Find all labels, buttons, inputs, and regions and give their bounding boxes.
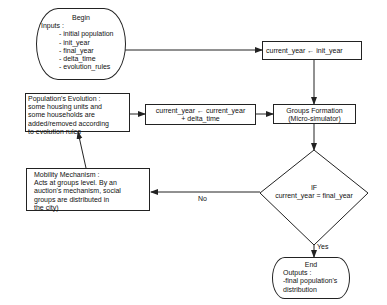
begin-title: Begin (37, 14, 125, 22)
increment-line2: + delta_time (146, 115, 255, 123)
edge-label-yes: Yes (317, 243, 328, 250)
decision-condition: current_year = final_year (262, 192, 366, 200)
edge-label-no: No (198, 195, 207, 202)
init-assign-box: current_year ← init_year (262, 41, 362, 60)
end-output-line: Outputs : (283, 269, 349, 277)
decision-if: IF (262, 184, 366, 192)
population-evolution-line: to evolution rules (28, 128, 129, 136)
end-output-line: -final population's (283, 277, 349, 285)
population-evolution-line: Population's Evolution : (28, 95, 129, 103)
mobility-line: the city) (34, 204, 149, 212)
groups-formation-title: Groups Formation (274, 107, 355, 115)
begin-input-item: - initial population (45, 30, 125, 38)
mobility-line: Mobility Mechanism : (34, 171, 149, 179)
mobility-line: groups are distributed in (34, 196, 149, 204)
end-terminal: End Outputs : -final population's distri… (272, 257, 350, 299)
population-evolution-line: some housing units and (28, 103, 129, 111)
population-evolution-box: Population's Evolution : some housing un… (25, 93, 130, 132)
increment-box: current_year ← current_year + delta_time (145, 104, 256, 125)
begin-terminal: Begin Inputs : - initial population - in… (36, 8, 126, 80)
groups-formation-subtitle: (Micro-simulator) (274, 115, 355, 123)
decision-text: IF current_year = final_year (262, 184, 366, 200)
increment-line1: current_year ← current_year (146, 107, 255, 115)
mobility-mechanism-box: Mobility Mechanism : Acts at groups leve… (26, 168, 150, 211)
begin-input-item: - evolution_rules (45, 63, 125, 71)
end-output-line: distribution (283, 286, 349, 294)
mobility-line: auction's mechanism, social (34, 187, 149, 195)
init-assign-text: current_year ← init_year (266, 47, 361, 55)
edge-mobility-to-population (78, 132, 86, 168)
population-evolution-line: some households are (28, 111, 129, 119)
begin-input-item: - delta_time (45, 55, 125, 63)
begin-input-item: - final_year (45, 47, 125, 55)
end-title: End (273, 261, 349, 269)
begin-input-item: - init_year (45, 39, 125, 47)
population-evolution-line: added/removed according (28, 120, 129, 128)
groups-formation-box: Groups Formation (Micro-simulator) (273, 104, 356, 124)
mobility-line: Acts at groups level. By an (34, 179, 149, 187)
begin-inputs-heading: Inputs : (41, 22, 125, 30)
